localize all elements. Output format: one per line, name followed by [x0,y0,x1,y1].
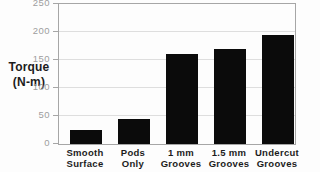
y-tick-mark-150 [53,59,58,60]
torque-bar-chart-figure: Torque (N-m) 050100150200250SmoothSurfac… [0,0,308,172]
bar-1-5-mm-grooves [214,49,246,144]
y-tick-mark-50 [53,115,58,116]
bar-1-mm-grooves [166,54,198,144]
y-tick-label-50: 50 [18,110,50,120]
plot-area [58,3,296,145]
y-tick-label-100: 100 [18,82,50,92]
y-tick-label-0: 0 [18,138,50,148]
bar-undercut-grooves [262,35,294,144]
x-label-line: Grooves [247,159,307,170]
y-tick-mark-200 [53,31,58,32]
x-label-undercut-grooves: UndercutGrooves [247,148,307,169]
y-tick-label-150: 150 [18,54,50,64]
bar-pods-only [118,119,150,144]
bar-smooth-surface [70,130,102,144]
x-label-line: Undercut [247,148,307,159]
y-tick-label-250: 250 [18,0,50,8]
gridline-200 [59,31,295,32]
y-tick-mark-250 [53,3,58,4]
y-tick-mark-100 [53,87,58,88]
y-tick-mark-0 [53,143,58,144]
y-tick-label-200: 200 [18,26,50,36]
